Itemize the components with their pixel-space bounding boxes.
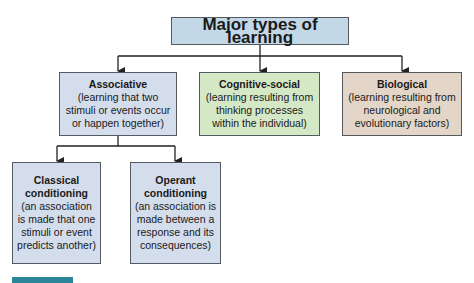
operant-conditioning-box: Operant conditioning (an association is … xyxy=(130,162,221,264)
cognitive-social-box: Cognitive-social (learning resulting fro… xyxy=(199,72,320,136)
footer-accent-bar xyxy=(12,277,73,283)
biological-heading: Biological xyxy=(377,78,427,91)
associative-heading: Associative xyxy=(89,78,147,91)
operant-conditioning-heading: Operant conditioning xyxy=(134,174,217,200)
classical-conditioning-box: Classical conditioning (an association i… xyxy=(12,162,101,264)
diagram-title-box: Major types of learning xyxy=(171,17,349,45)
operant-conditioning-description: (an association is made between a respon… xyxy=(134,200,217,252)
classical-conditioning-description: (an association is made that one stimuli… xyxy=(16,200,97,252)
associative-box: Associative (learning that two stimuli o… xyxy=(59,72,177,136)
cognitive-social-description: (learning resulting from thinking proces… xyxy=(203,91,316,130)
diagram-title: Major types of learning xyxy=(172,18,348,44)
biological-description: (learning resulting from neurological an… xyxy=(346,91,458,130)
associative-description: (learning that two stimuli or events occ… xyxy=(63,91,173,130)
cognitive-social-heading: Cognitive-social xyxy=(219,78,300,91)
biological-box: Biological (learning resulting from neur… xyxy=(342,72,462,136)
classical-conditioning-heading: Classical conditioning xyxy=(16,174,97,200)
